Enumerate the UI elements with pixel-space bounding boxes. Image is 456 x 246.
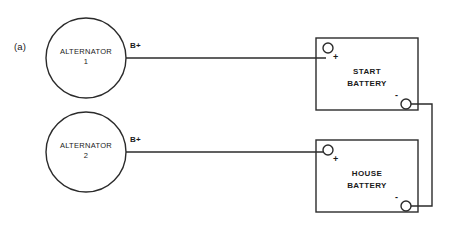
start-battery-positive-terminal <box>323 43 333 53</box>
house-battery-negative-terminal <box>401 201 411 211</box>
alternator-2-label-line2: 2 <box>46 152 126 161</box>
panel-label: (a) <box>14 42 26 53</box>
alternator-1-label-line2: 1 <box>46 58 126 67</box>
house-battery-positive-sign: + <box>333 154 338 164</box>
diagram-canvas <box>0 0 456 246</box>
house-battery-negative-sign: - <box>395 192 398 202</box>
start-battery-label-line1: START <box>316 66 418 78</box>
house-battery-label-line1: HOUSE <box>316 168 418 180</box>
alternator-2-bplus-label: B+ <box>130 135 141 144</box>
start-battery-negative-sign: - <box>395 90 398 100</box>
wiring-diagram: (a) ALTERNATOR 1 B+ ALTERNATOR 2 B+ STAR… <box>0 0 456 246</box>
alternator-1-bplus-label: B+ <box>130 41 141 50</box>
house-battery-label-line2: BATTERY <box>316 180 418 192</box>
start-battery-label-line2: BATTERY <box>316 78 418 90</box>
start-battery-negative-terminal <box>401 99 411 109</box>
start-battery-positive-sign: + <box>333 52 338 62</box>
alternator-2-label-line1: ALTERNATOR <box>46 142 126 151</box>
alternator-1-label-line1: ALTERNATOR <box>46 48 126 57</box>
house-battery-positive-terminal <box>323 145 333 155</box>
